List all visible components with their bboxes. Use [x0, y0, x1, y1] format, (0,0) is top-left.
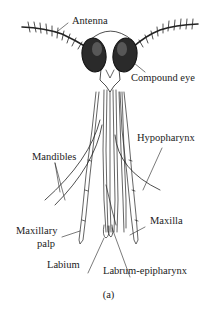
label-antenna: Antenna — [72, 16, 108, 27]
label-mandibles: Mandibles — [32, 152, 76, 163]
compound-eyes — [80, 36, 139, 73]
label-hypopharynx: Hypopharynx — [137, 133, 195, 144]
mosquito-head-diagram: Antenna Compound eye Hypopharynx Mandibl… — [0, 0, 217, 309]
mouthparts-bundle — [45, 90, 160, 244]
left-compound-eye — [80, 36, 108, 73]
figure-caption: (a) — [0, 289, 217, 300]
right-antenna — [132, 19, 198, 48]
label-maxilla: Maxilla — [150, 216, 183, 227]
label-labrum-epipharynx: Labrum-epipharynx — [103, 266, 187, 277]
leader-lines — [55, 23, 162, 277]
label-compound-eye: Compound eye — [131, 73, 195, 84]
label-maxillary-palp-line2: palp — [37, 239, 55, 250]
label-maxillary-palp-line1: Maxillary — [16, 226, 57, 237]
label-labium: Labium — [47, 260, 80, 271]
right-compound-eye — [111, 36, 139, 73]
